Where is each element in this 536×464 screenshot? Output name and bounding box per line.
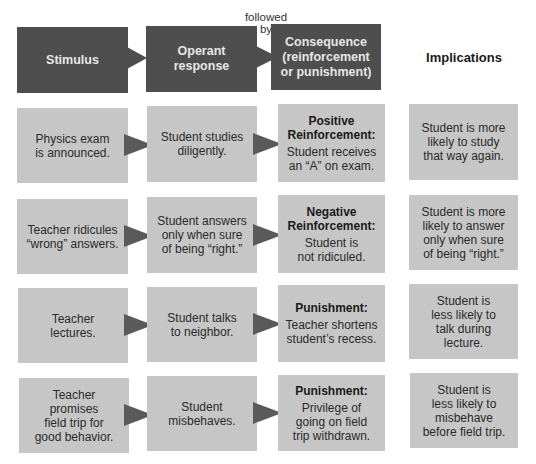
row4-stimulus: Teacher promises field trip for good beh… — [19, 378, 129, 453]
row3-response: Student talks to neighbor. — [147, 287, 257, 362]
row3-stimulus: Teacher lectures. — [18, 288, 128, 363]
text-line: Student studies — [161, 130, 244, 144]
row1-implication: Student is more likely to study that way… — [409, 104, 518, 180]
text-line: Teacher — [53, 388, 96, 402]
header-response-line-1: Operant — [178, 44, 226, 59]
text-line: Teacher ridicules — [27, 223, 117, 237]
text-line: field trip for — [44, 416, 103, 430]
followed-by-line-1: followed — [240, 11, 292, 23]
text-line: Student receives — [287, 145, 376, 159]
text-line: of being “right.” — [423, 247, 504, 261]
header-consequence: Consequence (reinforcement or punishment… — [271, 24, 381, 90]
header-stimulus-text: Stimulus — [46, 53, 99, 68]
consequence-label: Reinforcement: — [287, 219, 375, 233]
text-line: lectures. — [50, 326, 95, 340]
consequence-label: Positive — [308, 114, 354, 128]
row2-implication: Student is more likely to answer only wh… — [409, 195, 518, 270]
text-line: diligently. — [177, 144, 226, 158]
text-line: going on field — [296, 415, 367, 429]
consequence-label: Reinforcement: — [287, 128, 375, 142]
text-line: only when sure — [423, 233, 504, 247]
text-line: Student is more — [421, 121, 505, 135]
text-line: student’s recess. — [287, 332, 377, 346]
row4-consequence: Punishment: Privilege of going on field … — [278, 375, 385, 451]
row2-stimulus: Teacher ridicules “wrong” answers. — [17, 199, 128, 274]
text-line: likely to study — [427, 135, 499, 149]
header-stimulus: Stimulus — [17, 27, 128, 93]
header-implications: Implications — [408, 50, 520, 65]
text-line: Student is more — [421, 205, 505, 219]
text-line: only when sure — [162, 228, 243, 242]
text-line: Physics exam — [35, 132, 109, 146]
text-line: misbehaves. — [168, 414, 235, 428]
text-line: lecture. — [444, 336, 483, 350]
text-line: Student talks — [167, 311, 236, 325]
arrow-right-icon — [127, 47, 147, 69]
text-line: an “A” on exam. — [289, 159, 374, 173]
text-line: Student is — [437, 383, 490, 397]
text-line: less likely to — [431, 308, 496, 322]
text-line: good behavior. — [35, 430, 114, 444]
text-line: of being “right.” — [162, 242, 243, 256]
text-line: likely to answer — [422, 219, 504, 233]
header-consequence-line-1: Consequence — [285, 35, 367, 50]
text-line: Teacher — [52, 312, 95, 326]
text-line: talk during — [436, 322, 491, 336]
text-line: Student — [181, 400, 222, 414]
consequence-label: Negative — [306, 205, 356, 219]
header-consequence-line-2: (reinforcement — [282, 50, 370, 65]
row3-implication: Student is less likely to talk during le… — [409, 284, 518, 359]
text-line: “wrong” answers. — [26, 237, 118, 251]
text-line: Student is — [437, 294, 490, 308]
header-response-line-2: response — [174, 59, 230, 74]
consequence-label: Punishment: — [295, 301, 368, 315]
text-line: Teacher shortens — [285, 318, 377, 332]
row3-consequence: Punishment: Teacher shortens student’s r… — [278, 285, 385, 362]
consequence-label: Punishment: — [295, 384, 368, 398]
text-line: not ridiculed. — [297, 250, 365, 264]
text-line: is announced. — [35, 146, 110, 160]
text-line: Privilege of — [302, 401, 361, 415]
row1-consequence: Positive Reinforcement: Student receives… — [278, 104, 385, 182]
text-line: less likely to — [432, 397, 497, 411]
row2-consequence: Negative Reinforcement: Student is not r… — [278, 195, 385, 273]
text-line: promises — [50, 402, 99, 416]
row4-response: Student misbehaves. — [147, 376, 257, 451]
text-line: to neighbor. — [171, 325, 234, 339]
row4-implication: Student is less likely to misbehave befo… — [410, 373, 518, 448]
text-line: Student answers — [157, 214, 246, 228]
text-line: trip withdrawn. — [293, 429, 370, 443]
text-line: Student is — [305, 236, 358, 250]
row2-response: Student answers only when sure of being … — [147, 197, 257, 273]
header-operant-response: Operant response — [146, 26, 257, 92]
header-consequence-line-3: or punishment) — [281, 65, 372, 80]
row1-stimulus: Physics exam is announced. — [17, 108, 128, 183]
text-line: before field trip. — [423, 425, 506, 439]
text-line: misbehave — [435, 411, 493, 425]
row1-response: Student studies diligently. — [147, 106, 257, 182]
text-line: that way again. — [423, 149, 504, 163]
